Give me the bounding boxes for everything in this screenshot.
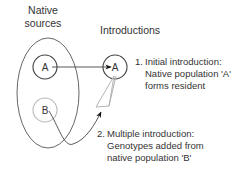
native-sources-heading-line1: Native — [28, 4, 58, 16]
genotype-addition-wedge — [96, 76, 114, 107]
step1-number: 1. — [135, 56, 143, 67]
introduced-population-a-label: A — [112, 62, 119, 73]
step2-line1: Multiple introduction: — [107, 128, 194, 139]
native-sources-heading-line2: sources — [25, 17, 62, 29]
introduction-diagram: Native sources Introductions A B A 1. In… — [0, 0, 249, 179]
step2-line2: Genotypes added from — [107, 140, 204, 151]
multiple-introduction-arrow — [49, 111, 101, 144]
native-population-b-label: B — [42, 105, 49, 116]
native-population-a-label: A — [42, 62, 49, 73]
step2-line3: native population 'B' — [107, 152, 192, 163]
step1-line2: Native population 'A' — [145, 68, 231, 79]
native-sources-region — [17, 38, 79, 148]
introductions-heading: Introductions — [100, 24, 160, 36]
step1-line3: forms resident — [145, 80, 206, 91]
step1-line1: Initial introduction: — [145, 56, 222, 67]
step2-number: 2. — [97, 128, 105, 139]
